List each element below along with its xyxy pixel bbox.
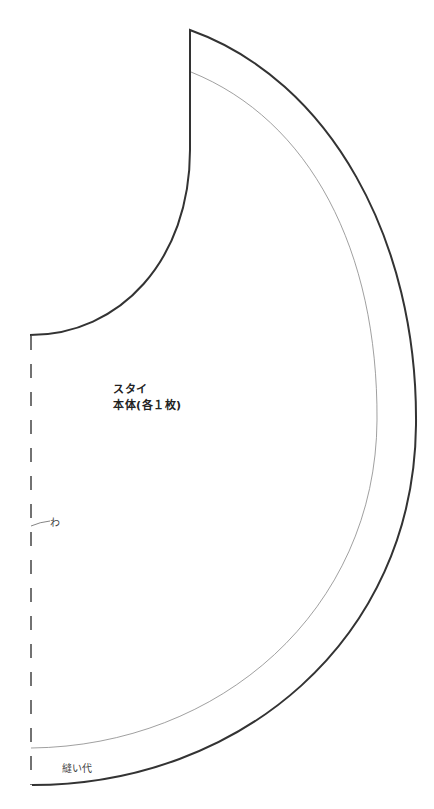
bib-pattern-piece <box>0 0 434 809</box>
fold-label: わ <box>50 514 60 529</box>
seam-allowance-label: 縫い代 <box>62 760 92 775</box>
piece-detail: 本体(各１枚) <box>113 398 182 414</box>
outer-cut-line <box>30 30 416 785</box>
piece-name: スタイ <box>113 382 182 398</box>
piece-title: スタイ 本体(各１枚) <box>113 382 182 414</box>
fold-leader-line <box>31 521 50 526</box>
seam-line <box>31 72 377 748</box>
